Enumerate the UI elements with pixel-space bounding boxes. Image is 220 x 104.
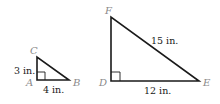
right-angle-marker-d — [111, 72, 120, 81]
side-label-ac: 3 in. — [14, 65, 35, 76]
side-label-de: 12 in. — [144, 85, 171, 96]
side-label-ab: 4 in. — [43, 84, 64, 95]
vertex-label-f: F — [104, 5, 113, 16]
triangle-def — [111, 17, 199, 81]
diagram: C A B 3 in. 4 in. F D E 15 in. 12 in. — [0, 0, 220, 104]
vertex-label-d: D — [98, 77, 107, 88]
vertex-label-b: B — [72, 77, 80, 88]
triangle-abc — [37, 57, 69, 80]
small-triangle: C A B 3 in. 4 in. — [14, 45, 80, 95]
large-triangle: F D E 15 in. 12 in. — [98, 5, 211, 96]
vertex-label-a: A — [25, 77, 33, 88]
vertex-label-e: E — [202, 77, 211, 88]
vertex-label-c: C — [30, 45, 38, 56]
side-label-fe: 15 in. — [151, 35, 178, 46]
right-angle-marker-a — [37, 72, 45, 80]
